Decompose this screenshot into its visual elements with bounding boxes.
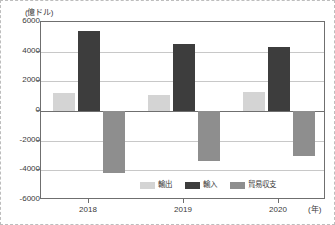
legend-item-貿易収支[interactable]: 貿易収支 — [230, 181, 276, 189]
x-axis-unit-label: (年) — [308, 205, 321, 214]
bar-group-2019 — [136, 22, 231, 198]
bar-2018-貿易収支[interactable] — [103, 111, 125, 173]
x-axis-tick-mark — [88, 199, 89, 203]
y-axis-tick-label: -4000 — [6, 165, 40, 173]
legend-swatch-icon — [185, 182, 200, 189]
x-axis-tick-label-2018: 2018 — [63, 205, 113, 214]
bar-2020-輸入[interactable] — [268, 47, 290, 111]
y-axis-tick-label: 0 — [6, 106, 40, 114]
legend-swatch-icon — [140, 182, 155, 189]
x-axis-tick-labels: 201820192020 — [40, 205, 325, 217]
chart-legend: 輸出輸入貿易収支 — [140, 181, 276, 189]
x-axis-tick-marks — [40, 199, 325, 204]
x-axis-tick-label-2020: 2020 — [253, 205, 303, 214]
x-axis-tick-mark — [278, 199, 279, 203]
plot-area — [40, 21, 325, 199]
legend-item-輸入[interactable]: 輸入 — [185, 181, 217, 189]
bar-2019-輸出[interactable] — [148, 95, 170, 111]
legend-label: 貿易収支 — [248, 181, 276, 189]
legend-item-輸出[interactable]: 輸出 — [140, 181, 172, 189]
y-axis-tick-label: -2000 — [6, 136, 40, 144]
bar-2018-輸入[interactable] — [78, 31, 100, 111]
bar-2020-輸出[interactable] — [243, 92, 265, 111]
chart-figure: (億ドル) 6000400020000-2000-4000-6000 20182… — [0, 0, 335, 225]
legend-swatch-icon — [230, 182, 245, 189]
bar-group-2020 — [231, 22, 326, 198]
bar-2019-輸入[interactable] — [173, 44, 195, 111]
bar-group-2018 — [41, 22, 136, 198]
x-axis-tick-label-2019: 2019 — [158, 205, 208, 214]
y-axis-tick-label: 4000 — [6, 47, 40, 55]
bar-2020-貿易収支[interactable] — [293, 111, 315, 156]
y-axis-tick-label: 2000 — [6, 76, 40, 84]
x-axis-tick-mark — [183, 199, 184, 203]
bar-2018-輸出[interactable] — [53, 93, 75, 111]
y-axis-tick-label: 6000 — [6, 17, 40, 25]
legend-label: 輸入 — [203, 181, 217, 189]
legend-label: 輸出 — [158, 181, 172, 189]
bar-2019-貿易収支[interactable] — [198, 111, 220, 161]
y-axis-tick-labels: 6000400020000-2000-4000-6000 — [1, 1, 40, 225]
y-axis-tick-label: -6000 — [6, 195, 40, 203]
